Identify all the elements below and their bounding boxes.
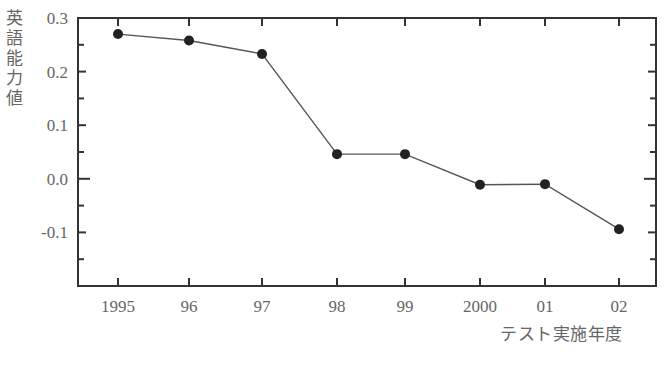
data-point (475, 180, 485, 190)
y-tick-label: -0.1 (41, 223, 68, 242)
x-tick-label: 97 (254, 297, 272, 316)
x-tick-label: 01 (537, 297, 554, 316)
x-tick-label: 96 (181, 297, 198, 316)
x-tick-label: 98 (329, 297, 346, 316)
line-chart: 0.30.20.10.0-0.119959697989920000102 (0, 0, 665, 366)
data-point (113, 29, 123, 39)
data-point (400, 149, 410, 159)
data-line (118, 34, 619, 229)
data-point (257, 49, 267, 59)
data-point (332, 149, 342, 159)
y-tick-label: 0.2 (47, 63, 68, 82)
y-tick-label: 0.3 (47, 9, 68, 28)
data-point (614, 224, 624, 234)
plot-frame (78, 18, 656, 286)
x-tick-label: 99 (397, 297, 414, 316)
x-tick-label: 1995 (101, 297, 135, 316)
y-tick-label: 0.0 (47, 170, 68, 189)
x-tick-label: 2000 (463, 297, 497, 316)
data-point (184, 36, 194, 46)
x-tick-label: 02 (611, 297, 628, 316)
y-tick-label: 0.1 (47, 116, 68, 135)
data-point (540, 179, 550, 189)
